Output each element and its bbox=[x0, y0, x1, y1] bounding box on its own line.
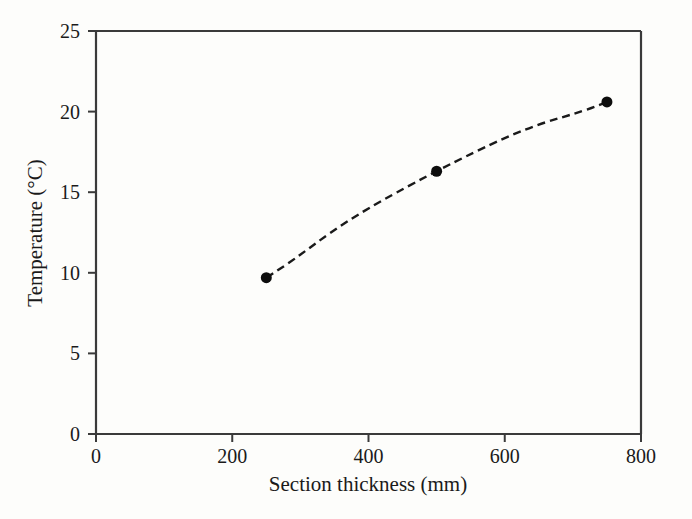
series-dashed-line bbox=[266, 102, 607, 278]
data-point-750 bbox=[601, 96, 612, 107]
x-tick-label-200: 200 bbox=[217, 446, 247, 466]
x-tick-label-600: 600 bbox=[490, 446, 520, 466]
x-axis-label: Section thickness (mm) bbox=[269, 472, 467, 497]
chart-figure: 0 5 10 15 20 25 0 200 400 600 800 Sectio… bbox=[0, 0, 692, 519]
y-tick-label-5: 5 bbox=[26, 343, 80, 363]
y-tick-label-0: 0 bbox=[26, 424, 80, 444]
y-axis-label: Temperature (°C) bbox=[23, 159, 48, 306]
y-axis-ticks bbox=[88, 31, 96, 434]
x-tick-label-0: 0 bbox=[91, 446, 101, 466]
plot-frame bbox=[96, 31, 641, 434]
x-tick-label-800: 800 bbox=[626, 446, 656, 466]
y-tick-label-25: 25 bbox=[26, 21, 80, 41]
x-tick-label-400: 400 bbox=[354, 446, 384, 466]
y-tick-label-20: 20 bbox=[26, 102, 80, 122]
data-point-500 bbox=[431, 166, 442, 177]
data-point-250 bbox=[261, 272, 272, 283]
series-markers bbox=[261, 96, 613, 283]
plot-canvas bbox=[0, 0, 692, 519]
x-axis-ticks bbox=[96, 434, 641, 442]
